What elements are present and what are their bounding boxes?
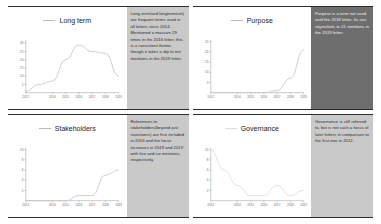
panel-grid: Long term 510152025302012201420152016201… — [8, 6, 373, 218]
svg-text:2014: 2014 — [49, 95, 56, 99]
svg-text:5: 5 — [206, 81, 208, 85]
svg-text:2: 2 — [206, 189, 208, 193]
panel-long-term: Long term 510152025302012201420152016201… — [8, 6, 189, 110]
chart-purpose: Purpose 51015202520122014201520162017201… — [193, 7, 312, 109]
chart-governance: Governance 24681020122014201520162017201… — [193, 115, 312, 217]
svg-text:15: 15 — [20, 66, 24, 70]
svg-text:2014: 2014 — [49, 203, 56, 207]
svg-text:2014: 2014 — [233, 95, 240, 99]
note-long-term: Long term/and longtermism) are frequent … — [127, 7, 189, 109]
svg-text:2015: 2015 — [62, 95, 69, 99]
svg-text:2: 2 — [22, 189, 24, 193]
svg-text:2018: 2018 — [102, 203, 109, 207]
svg-text:10: 10 — [204, 70, 208, 74]
svg-text:30: 30 — [20, 41, 24, 45]
svg-text:2018: 2018 — [286, 203, 293, 207]
chart-stakeholders: Stakeholders 246810201220142015201620172… — [8, 115, 127, 217]
svg-text:2019: 2019 — [115, 203, 122, 207]
svg-text:2015: 2015 — [62, 203, 69, 207]
svg-text:6: 6 — [206, 168, 208, 172]
svg-text:25: 25 — [20, 50, 24, 54]
svg-text:2017: 2017 — [273, 203, 280, 207]
chart-long-term: Long term 510152025302012201420152016201… — [8, 7, 127, 109]
svg-text:2017: 2017 — [273, 95, 280, 99]
svg-text:4: 4 — [206, 178, 208, 182]
svg-text:10: 10 — [20, 74, 24, 78]
plot-area-governance: 2468102012201420152016201720182019 — [193, 115, 312, 217]
svg-text:15: 15 — [204, 60, 208, 64]
svg-text:10: 10 — [204, 148, 208, 152]
svg-text:6: 6 — [22, 168, 24, 172]
svg-text:2016: 2016 — [75, 203, 82, 207]
svg-text:2019: 2019 — [115, 95, 122, 99]
panel-governance: Governance 24681020122014201520162017201… — [193, 114, 374, 218]
svg-text:2015: 2015 — [247, 203, 254, 207]
svg-text:2016: 2016 — [260, 203, 267, 207]
svg-text:2017: 2017 — [89, 203, 96, 207]
svg-text:8: 8 — [206, 158, 208, 162]
svg-text:20: 20 — [20, 58, 24, 62]
svg-text:10: 10 — [20, 148, 24, 152]
svg-text:2012: 2012 — [207, 203, 214, 207]
svg-text:2014: 2014 — [233, 203, 240, 207]
note-stakeholders: References to stakeholders(beyond just i… — [127, 115, 189, 217]
plot-area-stakeholders: 2468102012201420152016201720182019 — [8, 115, 127, 217]
svg-text:2012: 2012 — [207, 95, 214, 99]
svg-text:2012: 2012 — [22, 203, 29, 207]
svg-text:8: 8 — [22, 158, 24, 162]
svg-text:20: 20 — [204, 50, 208, 54]
svg-text:2015: 2015 — [247, 95, 254, 99]
svg-text:2017: 2017 — [89, 95, 96, 99]
svg-text:2019: 2019 — [300, 203, 307, 207]
figure-sheet: Long term 510152025302012201420152016201… — [0, 0, 381, 224]
panel-stakeholders: Stakeholders 246810201220142015201620172… — [8, 114, 189, 218]
svg-text:2016: 2016 — [75, 95, 82, 99]
svg-text:2012: 2012 — [22, 95, 29, 99]
plot-area-purpose: 5101520252012201420152016201720182019 — [193, 7, 312, 109]
svg-text:5: 5 — [22, 83, 24, 87]
svg-text:2016: 2016 — [260, 95, 267, 99]
svg-text:4: 4 — [22, 178, 24, 182]
svg-text:25: 25 — [204, 40, 208, 44]
svg-text:2018: 2018 — [286, 95, 293, 99]
panel-purpose: Purpose 51015202520122014201520162017201… — [193, 6, 374, 110]
svg-text:2018: 2018 — [102, 95, 109, 99]
note-purpose: Purpose is a term not used until the 201… — [311, 7, 373, 109]
svg-text:2019: 2019 — [300, 95, 307, 99]
plot-area-long-term: 510152025302012201420152016201720182019 — [8, 7, 127, 109]
note-governance: Governance is still referred to, but is … — [311, 115, 373, 217]
